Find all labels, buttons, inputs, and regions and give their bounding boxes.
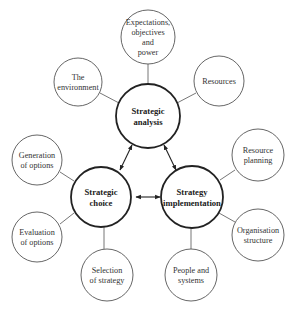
arrow-analysis-implementation <box>164 145 176 170</box>
node-label: implementation <box>163 198 221 208</box>
node-label: and <box>142 38 154 47</box>
strategic-management-diagram: Expectations, objectives and power The e… <box>0 0 294 310</box>
node-label: Generation <box>19 151 55 160</box>
node-label: of options <box>21 161 54 170</box>
node-label: systems <box>178 276 204 285</box>
connector-choice-evaluation <box>60 213 74 224</box>
node-label: Strategic <box>85 187 118 197</box>
node-label: Organisation <box>237 226 279 235</box>
connector-analysis-resources <box>177 93 196 103</box>
node-label: choice <box>90 198 113 208</box>
node-evaluation-of-options: Evaluation of options <box>12 212 62 262</box>
node-label: Strategic <box>132 106 165 116</box>
node-label: The <box>72 73 85 82</box>
node-label: Evaluation <box>19 228 54 237</box>
node-label: of options <box>21 238 54 247</box>
node-label: analysis <box>133 117 163 127</box>
node-environment: The environment <box>54 58 102 106</box>
node-label: Resources <box>202 77 236 86</box>
connector-implementation-resource-planning <box>220 170 235 180</box>
node-label: People and <box>173 266 209 275</box>
node-people-and-systems: People and systems <box>165 249 217 301</box>
connector-choice-generation <box>60 172 74 181</box>
node-strategy-implementation: Strategy implementation <box>161 166 223 228</box>
node-label: Strategy <box>176 187 208 197</box>
node-organisation-structure: Organisation structure <box>232 209 284 261</box>
node-label: planning <box>244 156 273 165</box>
node-expectations: Expectations, objectives and power <box>121 10 175 64</box>
node-label: power <box>138 48 159 57</box>
node-strategic-choice: Strategic choice <box>71 167 131 227</box>
node-generation-of-options: Generation of options <box>12 135 62 185</box>
connector-analysis-environment <box>100 93 119 103</box>
node-resources: Resources <box>194 56 244 106</box>
node-label: objectives <box>131 28 164 37</box>
node-label: Selection <box>92 266 122 275</box>
node-strategic-analysis: Strategic analysis <box>116 84 180 148</box>
node-label: Expectations, <box>126 18 170 27</box>
node-resource-planning: Resource planning <box>232 129 284 181</box>
node-label: Resource <box>243 146 274 155</box>
arrow-analysis-choice <box>120 145 132 170</box>
connector-implementation-organisation <box>219 213 235 222</box>
node-label: structure <box>244 236 273 245</box>
node-label: environment <box>57 83 99 92</box>
node-selection-of-strategy: Selection of strategy <box>81 249 133 301</box>
node-label: of strategy <box>90 276 126 285</box>
